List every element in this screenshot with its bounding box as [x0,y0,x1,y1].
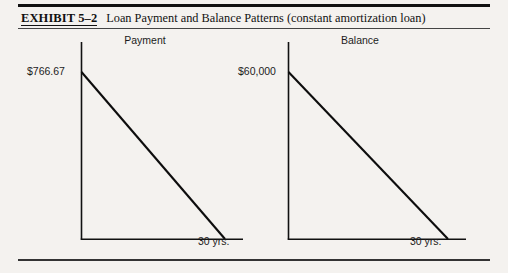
exhibit-caption-text: Loan Payment and Balance Patterns (const… [106,11,425,25]
payment-data-line [82,72,226,239]
balance-data-line [289,72,449,239]
payment-x-axis-label: 30 yrs. [198,235,230,247]
payment-y-axis-label: $766.67 [27,65,65,77]
exhibit-number: EXHIBIT 5–2 [21,11,97,26]
balance-x-axis-label: 30 yrs. [410,235,442,247]
balance-y-axis-label: $60,000 [238,65,276,77]
chart-payment: Payment $766.67 30 yrs. [20,30,250,258]
bottom-rule [18,259,490,261]
top-rule [18,4,490,7]
caption-divider-rule [18,28,490,29]
exhibit-caption: EXHIBIT 5–2Loan Payment and Balance Patt… [21,10,426,27]
chart-balance: Balance $60,000 30 yrs. [228,30,478,258]
exhibit-figure: EXHIBIT 5–2Loan Payment and Balance Patt… [0,0,508,273]
